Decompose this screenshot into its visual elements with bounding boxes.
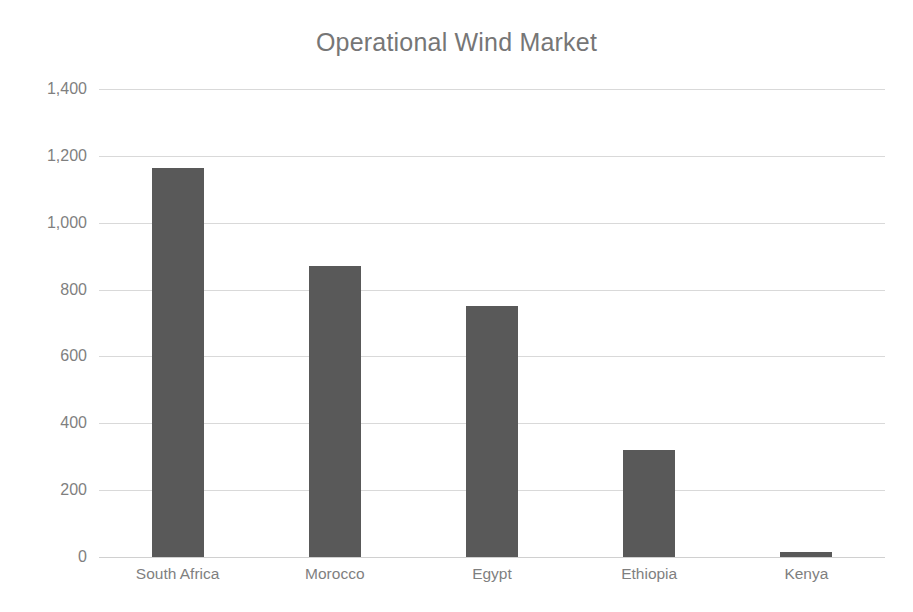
y-axis-tick-label: 1,400 [0, 81, 87, 97]
y-axis-tick-label: 200 [0, 482, 87, 498]
gridline [99, 557, 885, 558]
bar [623, 450, 675, 557]
chart-title: Operational Wind Market [0, 26, 913, 58]
y-axis-tick-label: 0 [0, 549, 87, 565]
y-axis-tick-label: 600 [0, 348, 87, 364]
y-axis: 1,4001,2001,0008006004002000 [0, 89, 87, 557]
bar [309, 266, 361, 557]
bar [780, 552, 832, 557]
y-axis-tick-label: 400 [0, 415, 87, 431]
y-axis-tick-label: 800 [0, 282, 87, 298]
bar [466, 306, 518, 557]
x-axis-tick-label: Ethiopia [571, 564, 728, 584]
bar [152, 168, 204, 557]
x-axis-tick-label: Kenya [728, 564, 885, 584]
bar-series [99, 89, 885, 557]
bar-chart: Operational Wind Market 1,4001,2001,0008… [0, 0, 913, 612]
y-axis-tick-label: 1,200 [0, 148, 87, 164]
x-axis-tick-label: Egypt [413, 564, 570, 584]
x-axis-tick-label: Morocco [256, 564, 413, 584]
y-axis-tick-label: 1,000 [0, 215, 87, 231]
x-axis: South AfricaMoroccoEgyptEthiopiaKenya [99, 564, 885, 592]
x-axis-tick-label: South Africa [99, 564, 256, 584]
